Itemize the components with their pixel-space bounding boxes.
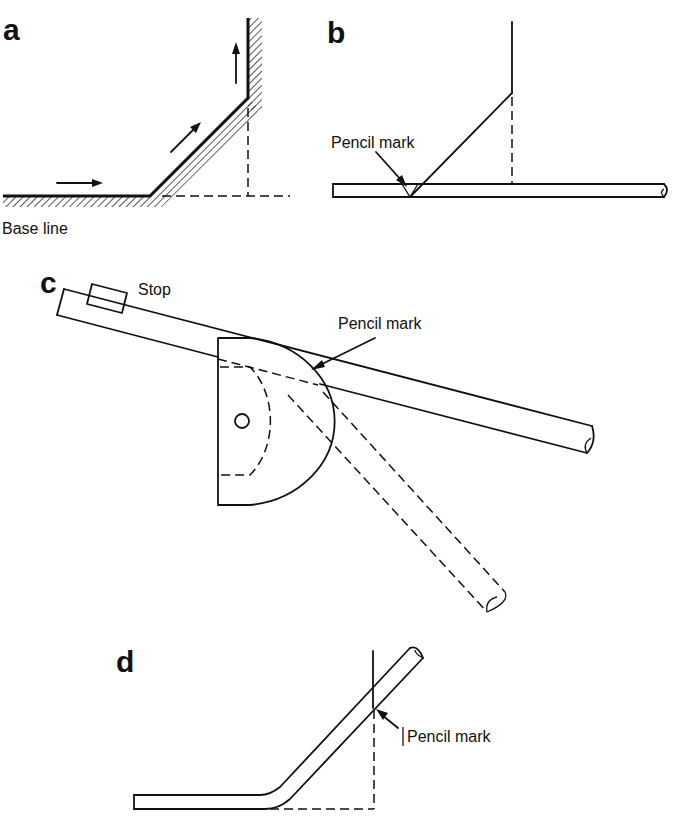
pencil-mark-arrow-icon: [376, 152, 407, 187]
arrow-up-icon: [232, 42, 240, 83]
pipe-bending-diagram: a Base line b: [0, 0, 681, 822]
bent-pipe-dashed: [218, 359, 506, 612]
base-line-hatch: [3, 196, 162, 207]
arrow-right-icon: [57, 179, 103, 187]
panel-a-letter: a: [3, 13, 20, 46]
stop-label: Stop: [138, 281, 171, 298]
angled-setout-line: [410, 93, 512, 197]
base-line-label: Base line: [2, 220, 68, 237]
pipe-b: [333, 184, 667, 197]
stop-block: [87, 284, 127, 313]
panel-b-letter: b: [327, 16, 345, 49]
pipe-c: [57, 289, 594, 453]
panel-b: b Pencil mark: [327, 16, 667, 197]
wall-hatch: [248, 18, 262, 110]
panel-a: a Base line: [2, 13, 290, 237]
pencil-mark-label-d: Pencil mark: [407, 728, 492, 745]
former-groove: [220, 367, 270, 475]
pivot-hole: [235, 414, 249, 428]
pipe-d: [134, 647, 423, 809]
panel-c-letter: c: [40, 266, 57, 299]
pencil-mark-label-c: Pencil mark: [338, 315, 423, 332]
pencil-mark-arrow-icon-c: [311, 338, 375, 370]
pencil-mark-arrow-icon-d: [376, 709, 403, 746]
panel-d-letter: d: [116, 645, 134, 678]
panel-d: d Pencil mark: [116, 645, 492, 809]
pencil-mark-label-b: Pencil mark: [331, 134, 416, 151]
base-line-profile: [3, 18, 248, 196]
panel-c: c Stop Pencil mark: [40, 266, 594, 612]
slope-hatch: [150, 98, 258, 207]
